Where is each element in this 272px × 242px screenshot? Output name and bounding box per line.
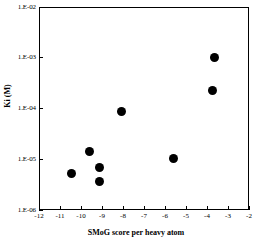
- y-tick-mark: [39, 108, 43, 109]
- x-axis-title: SMoG score per heavy atom: [0, 228, 272, 237]
- x-tick-mark: [249, 206, 250, 210]
- x-tick-mark: [165, 206, 166, 210]
- y-tick-label: 1.E-02: [0, 4, 36, 11]
- x-tick-mark: [207, 206, 208, 210]
- y-tick-mark: [39, 159, 43, 160]
- data-point: [208, 86, 217, 95]
- y-tick-mark: [39, 57, 43, 58]
- plot-area: [39, 7, 249, 210]
- x-tick-mark: [102, 206, 103, 210]
- x-tick-mark: [123, 206, 124, 210]
- x-tick-mark: [39, 206, 40, 210]
- y-tick-label: 1.E-05: [0, 156, 36, 163]
- x-tick-mark: [186, 206, 187, 210]
- x-tick-mark: [60, 206, 61, 210]
- x-tick-label: -2: [237, 213, 261, 220]
- x-tick-mark: [228, 206, 229, 210]
- y-tick-mark: [39, 7, 43, 8]
- y-axis-title: Ki (M): [4, 61, 12, 131]
- data-point: [169, 154, 178, 163]
- x-tick-mark: [81, 206, 82, 210]
- x-tick-mark: [144, 206, 145, 210]
- scatter-chart: 1.E-021.E-031.E-041.E-051.E-06 -12-11-10…: [0, 0, 272, 242]
- data-point: [67, 169, 76, 178]
- y-tick-mark: [39, 210, 43, 211]
